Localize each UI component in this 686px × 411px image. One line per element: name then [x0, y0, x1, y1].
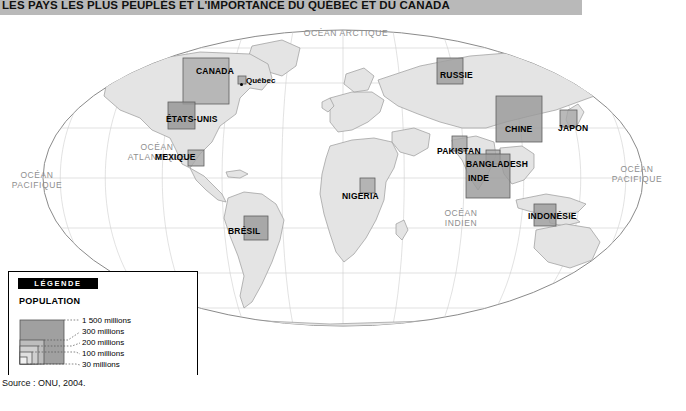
source-note: Source : ONU, 2004.: [2, 378, 86, 388]
legend-label-1500: 1 500 millions: [82, 316, 131, 325]
country-label-japon: JAPON: [558, 123, 588, 133]
city-label-quebec: Québec: [246, 76, 275, 85]
country-label-bresil: BRÉSIL: [228, 226, 260, 236]
symbol-canada: [183, 58, 229, 104]
ocean-label: OCÉAN ARCTIQUE: [300, 28, 392, 38]
legend-label-300: 300 millions: [82, 327, 124, 336]
ocean-label: OCÉANINDIEN: [430, 208, 492, 228]
country-label-etats-unis: ÉTATS-UNIS: [166, 114, 218, 124]
country-label-mexique: MEXIQUE: [155, 152, 196, 162]
world-map: OCÉAN ARCTIQUE OCÉANATLANTIQUE OCÉANPACI…: [0, 18, 686, 375]
country-label-indonesie: INDONÉSIE: [528, 211, 577, 221]
country-label-canada: CANADA: [196, 66, 234, 76]
legend-square-30: [20, 357, 27, 364]
symbol-chine: [496, 96, 542, 142]
country-label-inde: INDE: [468, 173, 489, 183]
country-label-chine: CHINE: [505, 124, 532, 134]
city-dot-quebec: [240, 83, 243, 86]
country-label-bangladesh: BANGLADESH: [466, 159, 528, 169]
legend-box: LÉGENDE POPULATION 1 500 mill: [8, 271, 198, 375]
legend-subtitle: POPULATION: [19, 296, 80, 306]
legend-label-200: 200 millions: [82, 338, 124, 347]
ocean-label: OCÉANPACIFIQUE: [604, 164, 670, 184]
legend-graphic: 1 500 millions 300 millions 200 millions…: [18, 312, 194, 375]
legend-header-label: LÉGENDE: [18, 278, 98, 289]
page-title: LES PAYS LES PLUS PEUPLÉS ET L'IMPORTANC…: [2, 0, 450, 11]
ocean-label: OCÉANPACIFIQUE: [4, 170, 70, 190]
country-label-pakistan: PAKISTAN: [437, 146, 481, 156]
legend-label-100: 100 millions: [82, 349, 124, 358]
title-bar: LES PAYS LES PLUS PEUPLÉS ET L'IMPORTANC…: [0, 0, 686, 16]
country-label-nigeria: NIGERIA: [342, 191, 379, 201]
legend-label-30: 30 millions: [82, 360, 120, 369]
legend-header-background: LÉGENDE: [18, 278, 98, 289]
country-label-russie: RUSSIE: [440, 70, 473, 80]
